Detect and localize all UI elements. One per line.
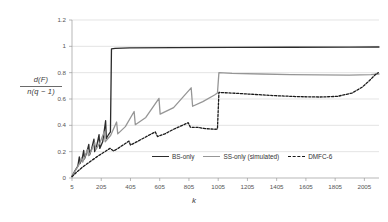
x-axis-label: k <box>0 196 388 205</box>
y-tick-label-1: 0.2 <box>44 148 66 155</box>
x-tick-label-0: 5 <box>57 183 87 190</box>
legend-label-2: DMFC-6 <box>308 153 332 160</box>
x-tick-label-2: 405 <box>115 183 145 190</box>
x-tick-label-1: 205 <box>86 183 116 190</box>
y-tick-label-6: 1.2 <box>44 16 66 23</box>
legend-item-2[interactable]: DMFC-6 <box>288 153 332 160</box>
y-tick-label-0: 0 <box>44 174 66 181</box>
legend-item-1[interactable]: SS-only (simulated) <box>203 153 279 160</box>
x-tick-label-10: 2005 <box>349 183 379 190</box>
y-tick-label-2: 0.4 <box>44 121 66 128</box>
x-tick-label-9: 1805 <box>320 183 350 190</box>
x-tick-label-4: 805 <box>174 183 204 190</box>
x-tick-label-6: 1205 <box>232 183 262 190</box>
legend-label-0: BS-only <box>172 153 194 160</box>
legend-label-1: SS-only (simulated) <box>223 153 279 160</box>
x-tick-label-7: 1405 <box>262 183 292 190</box>
chart-container: d(F) n(q − 1) k BS-onlySS-only (simulate… <box>0 0 388 222</box>
legend-item-0[interactable]: BS-only <box>152 153 194 160</box>
x-tick-label-8: 1605 <box>291 183 321 190</box>
y-tick-label-3: 0.6 <box>44 95 66 102</box>
y-tick-label-5: 1 <box>44 42 66 49</box>
x-tick-label-5: 1005 <box>203 183 233 190</box>
y-tick-label-4: 0.8 <box>44 69 66 76</box>
chart-legend: BS-onlySS-only (simulated)DMFC-6 <box>152 150 378 163</box>
x-tick-label-3: 605 <box>145 183 175 190</box>
